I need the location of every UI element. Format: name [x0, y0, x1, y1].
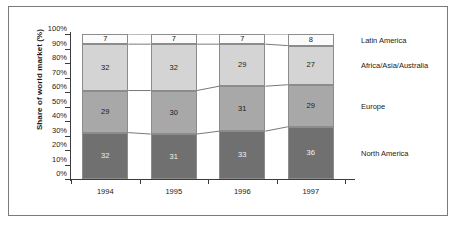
- x-axis-tick-label-1997: 1997: [281, 187, 341, 196]
- y-axis-tick-mark: [65, 63, 70, 64]
- bar-segment-1994-europe[interactable]: 29: [82, 91, 128, 133]
- x-axis-tick-mark: [71, 180, 72, 184]
- plot-area: 3229327313032733312973629278: [71, 34, 345, 179]
- x-axis-tick-mark: [277, 180, 278, 184]
- segment-value-label: 31: [238, 105, 246, 113]
- bar-segment-1995-latin-america[interactable]: 7: [151, 34, 197, 44]
- x-axis-line: [70, 179, 355, 180]
- series-label-europe: Europe: [361, 102, 385, 111]
- segment-value-label: 29: [238, 61, 246, 69]
- y-axis-tick-label: 80%: [31, 54, 67, 62]
- chart-figure: Share of world market (%) 100%90%80%70%6…: [0, 0, 457, 228]
- bar-1996[interactable]: 3331297: [219, 34, 265, 179]
- segment-value-label: 31: [170, 153, 178, 161]
- segment-value-label: 36: [307, 149, 315, 157]
- segment-value-label: 7: [103, 35, 107, 43]
- segment-value-label: 32: [170, 64, 178, 72]
- y-axis-tick-mark: [65, 179, 70, 180]
- x-axis-tick-label-1995: 1995: [144, 187, 204, 196]
- bar-segment-1997-north-america[interactable]: 36: [288, 127, 334, 179]
- bar-segment-1995-north-america[interactable]: 31: [151, 134, 197, 179]
- bar-segment-1994-north-america[interactable]: 32: [82, 133, 128, 179]
- x-axis-tick-label-1996: 1996: [212, 187, 272, 196]
- y-axis-tick-labels: 100%90%80%70%60%50%40%30%20%10%0%: [31, 29, 67, 179]
- y-axis-tick-mark: [65, 78, 70, 79]
- series-label-africa-asia-australia: Africa/Asia/Australia: [361, 61, 428, 70]
- segment-value-label: 7: [172, 35, 176, 43]
- y-axis-tick-mark: [65, 107, 70, 108]
- bar-segment-1995-europe[interactable]: 30: [151, 91, 197, 135]
- y-axis-tick-mark: [65, 150, 70, 151]
- y-axis-tick-label: 0%: [31, 170, 67, 178]
- series-label-north-america: North America: [361, 149, 409, 158]
- y-axis-tick-label: 10%: [31, 156, 67, 164]
- y-axis-tick-mark: [65, 49, 70, 50]
- bar-segment-1996-africa-asia-australia[interactable]: 29: [219, 44, 265, 86]
- y-axis-tick-label: 20%: [31, 141, 67, 149]
- segment-value-label: 29: [307, 102, 315, 110]
- bar-segment-1995-africa-asia-australia[interactable]: 32: [151, 44, 197, 90]
- y-axis-tick-label: 70%: [31, 69, 67, 77]
- bar-segment-1996-north-america[interactable]: 33: [219, 131, 265, 179]
- y-axis-tick-mark: [65, 92, 70, 93]
- y-axis-tick-label: 40%: [31, 112, 67, 120]
- bar-1994[interactable]: 3229327: [82, 34, 128, 179]
- segment-value-label: 27: [307, 61, 315, 69]
- y-axis-tick-mark: [65, 34, 70, 35]
- bar-1997[interactable]: 3629278: [288, 34, 334, 179]
- y-axis-tick-label: 60%: [31, 83, 67, 91]
- segment-value-label: 30: [170, 109, 178, 117]
- series-label-latin-america: Latin America: [361, 36, 406, 45]
- x-axis-tick-mark: [140, 180, 141, 184]
- segment-value-label: 29: [101, 108, 109, 116]
- y-axis-tick-label: 30%: [31, 127, 67, 135]
- bar-1995[interactable]: 3130327: [151, 34, 197, 179]
- y-axis-tick-label: 50%: [31, 98, 67, 106]
- x-axis-tick-mark: [345, 180, 346, 184]
- bar-segment-1997-africa-asia-australia[interactable]: 27: [288, 46, 334, 85]
- bar-segment-1997-latin-america[interactable]: 8: [288, 34, 334, 46]
- segment-value-label: 33: [238, 151, 246, 159]
- bar-segment-1996-europe[interactable]: 31: [219, 86, 265, 131]
- segment-value-label: 32: [101, 64, 109, 72]
- y-axis-tick-mark: [65, 136, 70, 137]
- chart-frame: Share of world market (%) 100%90%80%70%6…: [8, 6, 448, 216]
- bar-segment-1996-latin-america[interactable]: 7: [219, 34, 265, 44]
- segment-value-label: 32: [101, 152, 109, 160]
- x-axis-tick-label-1994: 1994: [75, 187, 135, 196]
- bar-segment-1994-africa-asia-australia[interactable]: 32: [82, 44, 128, 90]
- bar-segment-1994-latin-america[interactable]: 7: [82, 34, 128, 44]
- y-axis-tick-mark: [65, 121, 70, 122]
- segment-value-label: 8: [309, 36, 313, 44]
- bar-segment-1997-europe[interactable]: 29: [288, 85, 334, 127]
- y-axis-tick-mark: [65, 165, 70, 166]
- y-axis-tick-label: 100%: [31, 25, 67, 33]
- y-axis-tick-label: 90%: [31, 40, 67, 48]
- x-axis-tick-mark: [208, 180, 209, 184]
- segment-value-label: 7: [240, 35, 244, 43]
